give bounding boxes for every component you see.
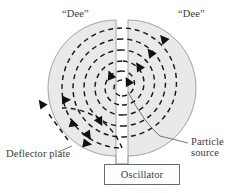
dee-left-plate bbox=[48, 20, 116, 156]
particle-source-label-line2: source bbox=[191, 147, 224, 158]
particle-source-label: Particle source bbox=[191, 136, 224, 158]
cyclotron-figure: “Dee” “Dee” Deflector plate Particle sou… bbox=[0, 0, 246, 193]
oscillator-box: Oscillator bbox=[104, 164, 180, 185]
oscillator-label: Oscillator bbox=[121, 169, 163, 180]
dee-right-label: “Dee” bbox=[178, 8, 205, 19]
deflector-plate-label: Deflector plate bbox=[6, 148, 70, 159]
dee-left-label: “Dee” bbox=[62, 8, 89, 19]
particle-source-label-line1: Particle bbox=[191, 136, 224, 147]
oscillator-connectors bbox=[116, 156, 128, 164]
